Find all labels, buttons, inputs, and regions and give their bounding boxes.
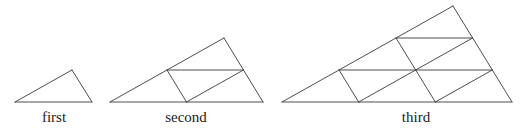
edge-line	[167, 70, 187, 102]
figure-first	[15, 70, 92, 102]
figure-third	[282, 6, 512, 102]
label-second: second	[165, 109, 207, 125]
label-third: third	[402, 109, 431, 125]
edge-line	[339, 70, 359, 102]
edge-line	[282, 6, 453, 102]
edge-line	[435, 70, 492, 102]
edge-line	[187, 70, 244, 102]
figure-second	[110, 38, 263, 102]
edge-line	[72, 70, 92, 102]
triangle-subdivision-diagram: first second third	[0, 0, 520, 129]
label-first: first	[42, 109, 67, 125]
edge-line	[15, 70, 72, 102]
